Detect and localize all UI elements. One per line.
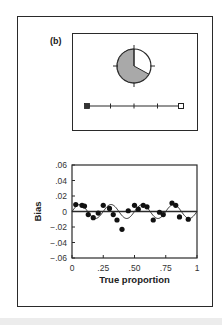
data-point bbox=[111, 212, 116, 217]
data-point bbox=[96, 210, 101, 215]
y-tick-label: 0 bbox=[62, 207, 67, 217]
data-point bbox=[177, 214, 182, 219]
slider-left-marker[interactable] bbox=[85, 104, 90, 109]
y-tick-label: .02 bbox=[55, 191, 67, 201]
slider-right-marker[interactable] bbox=[179, 104, 184, 109]
data-point bbox=[91, 215, 96, 220]
x-tick-label: .25 bbox=[97, 263, 109, 273]
x-tick-label: .50 bbox=[129, 263, 141, 273]
data-point bbox=[86, 212, 91, 217]
y-axis-title: Bias bbox=[32, 201, 43, 221]
x-tick-label: 1 bbox=[195, 263, 200, 273]
x-tick-label: .75 bbox=[160, 263, 172, 273]
y-tick-label: .06 bbox=[55, 160, 67, 170]
data-point bbox=[151, 217, 156, 222]
data-point bbox=[114, 217, 119, 222]
y-tick-label: −.02 bbox=[50, 222, 67, 232]
data-point bbox=[186, 217, 191, 222]
data-point bbox=[136, 207, 141, 212]
data-point bbox=[126, 208, 131, 213]
data-point bbox=[107, 206, 112, 211]
data-point bbox=[144, 204, 149, 209]
data-point bbox=[173, 203, 178, 208]
data-point bbox=[73, 202, 78, 207]
bias-plot: .06.04.020−.02−.04−.060.25.50.751True pr… bbox=[32, 160, 200, 285]
data-point bbox=[132, 203, 137, 208]
y-tick-label: .04 bbox=[55, 176, 67, 186]
data-point bbox=[161, 212, 166, 217]
y-tick-label: −.04 bbox=[50, 238, 67, 248]
x-axis-title: True proportion bbox=[99, 274, 170, 285]
page-edge bbox=[0, 318, 222, 325]
response-slider[interactable] bbox=[85, 104, 184, 109]
pie-chart-stimulus bbox=[113, 45, 155, 87]
data-point bbox=[119, 227, 124, 232]
data-point bbox=[101, 203, 106, 208]
figure-graphics: .06.04.020−.02−.04−.060.25.50.751True pr… bbox=[0, 0, 222, 325]
y-tick-label: −.06 bbox=[50, 253, 67, 263]
data-point bbox=[82, 203, 87, 208]
x-tick-label: 0 bbox=[70, 263, 75, 273]
